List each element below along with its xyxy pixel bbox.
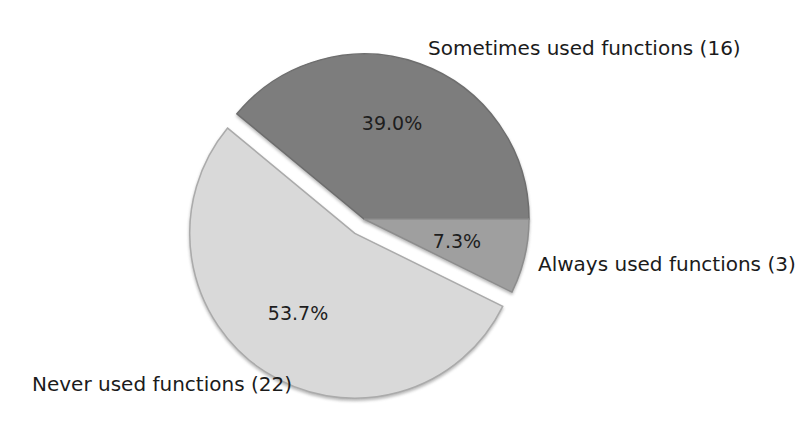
slice-pct-never: 53.7% [268, 302, 328, 324]
slice-label-never: Never used functions (22) [32, 372, 292, 396]
slice-label-sometimes: Sometimes used functions (16) [428, 36, 741, 60]
slice-label-always: Always used functions (3) [538, 252, 796, 276]
pie-chart [0, 0, 797, 428]
slice-pct-always: 7.3% [433, 230, 481, 252]
pie-chart-figure: Sometimes used functions (16) Always use… [0, 0, 797, 428]
slice-pct-sometimes: 39.0% [362, 112, 422, 134]
